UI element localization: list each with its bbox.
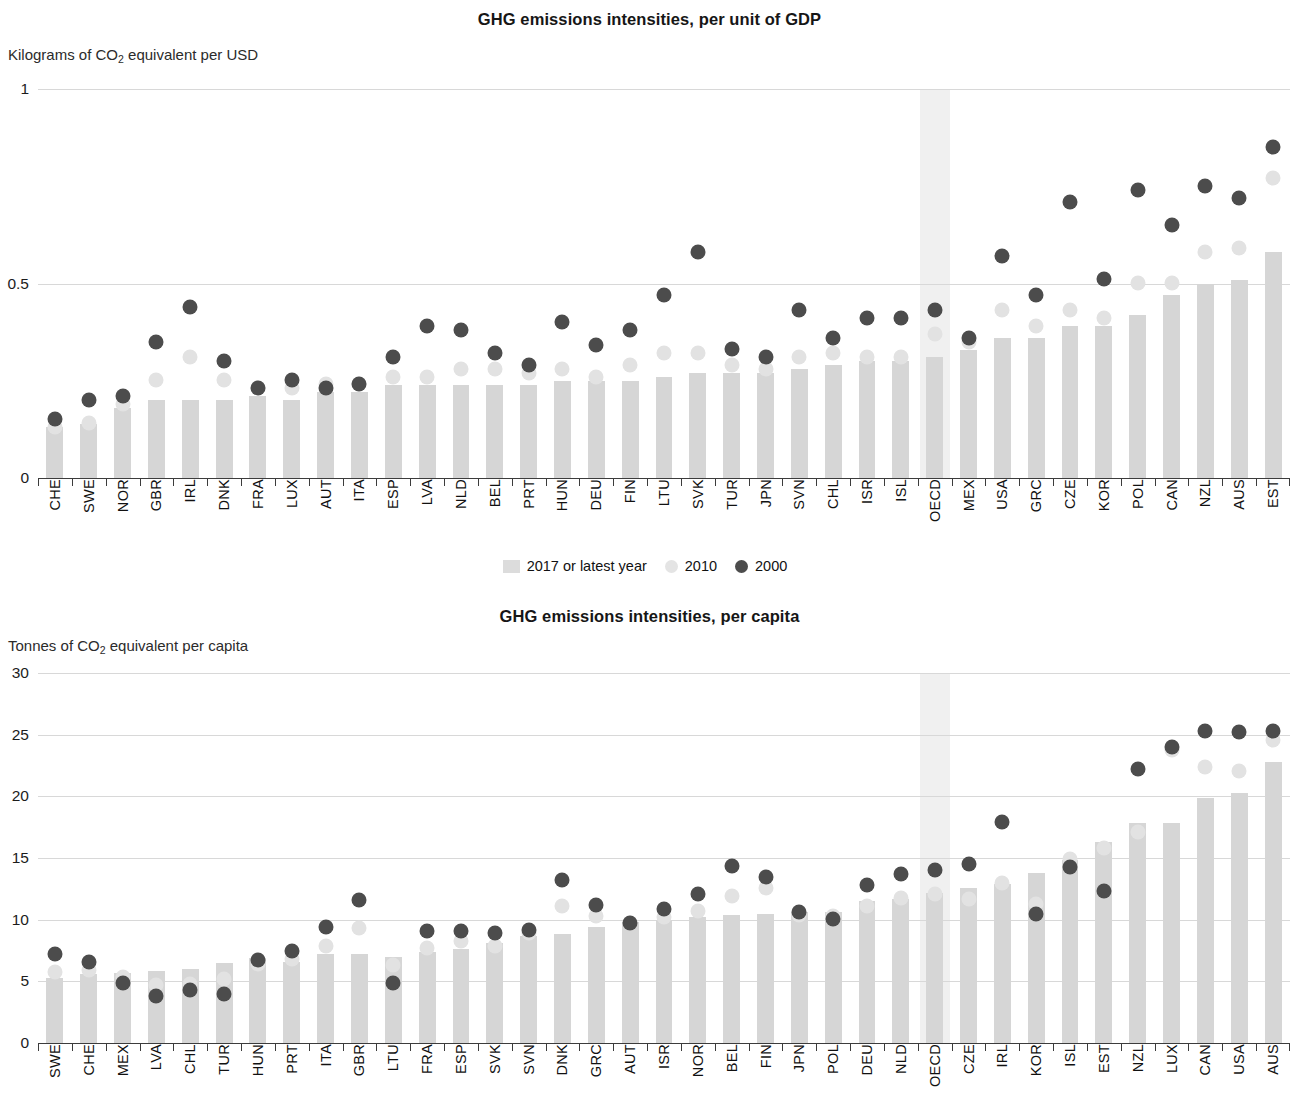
legend-2010-label: 2010 [685, 558, 717, 574]
bar-2017 [689, 917, 706, 1043]
x-axis-label-isr: ISR [859, 479, 875, 504]
dot-2000 [1063, 859, 1078, 874]
x-axis-label-holder: DEU [850, 1044, 884, 1076]
dot-2000 [1232, 190, 1247, 205]
dot-2010 [487, 361, 502, 376]
dot-2000 [589, 897, 604, 912]
dot-2000 [1096, 884, 1111, 899]
x-axis-label-lux: LUX [1164, 1044, 1180, 1073]
x-axis-label-holder: GRC [1019, 479, 1053, 512]
y-axis-unit-capita-sub: 2 [100, 644, 106, 656]
x-axis-label-deu: DEU [588, 479, 604, 511]
x-axis-label-holder: AUS [1256, 1044, 1290, 1075]
x-axis-label-holder: DNK [207, 479, 241, 511]
x-axis-label-holder: CAN [1188, 1044, 1222, 1076]
x-axis-label-holder: JPN [749, 479, 783, 507]
bar-2017 [1062, 326, 1079, 478]
bar-2017 [723, 373, 740, 478]
chart-column [72, 673, 106, 1043]
bar-2017 [1163, 295, 1180, 478]
x-axis-gdp: CHESWENORGBRIRLDNKFRALUXAUTITAESPLVANLDB… [38, 478, 1290, 479]
x-axis-label-holder: OECD [918, 1044, 952, 1087]
dot-2000 [1130, 762, 1145, 777]
x-axis-label-holder: NZL [1188, 479, 1222, 507]
dot-2000 [690, 886, 705, 901]
x-axis-label-holder: ISL [1053, 1044, 1087, 1067]
dot-2010 [1130, 276, 1145, 291]
y-axis-tick-label: 0 [20, 469, 29, 487]
dot-2000 [47, 947, 62, 962]
x-axis-label-ltu: LTU [656, 479, 672, 506]
x-axis-label-holder: LUX [275, 479, 309, 508]
chart-column [1155, 673, 1189, 1043]
chart-page: GHG emissions intensities, per unit of G… [0, 0, 1299, 1115]
dot-2010 [81, 416, 96, 431]
dot-2000 [521, 922, 536, 937]
x-axis-label-fin: FIN [622, 479, 638, 503]
chart-column [985, 89, 1019, 478]
dot-2000 [352, 377, 367, 392]
x-axis-label-holder: GRC [579, 1044, 613, 1077]
x-axis-label-holder: GBR [140, 479, 174, 511]
dot-2000 [453, 923, 468, 938]
bar-2017 [689, 373, 706, 478]
dot-2010 [656, 346, 671, 361]
chart-column [410, 673, 444, 1043]
x-axis-label-isl: ISL [893, 479, 909, 502]
dot-2010 [1232, 241, 1247, 256]
dot-2000 [555, 873, 570, 888]
chart-column [952, 89, 986, 478]
x-axis-label-holder: CHE [38, 479, 72, 511]
chart-column [850, 673, 884, 1043]
bar-2017 [926, 893, 943, 1043]
y-axis-tick-label: 0 [20, 1034, 29, 1052]
dot-2000 [961, 857, 976, 872]
dot-2010 [690, 904, 705, 919]
dot-2010 [1232, 763, 1247, 778]
bar-2017 [1163, 823, 1180, 1043]
dot-2000 [1164, 217, 1179, 232]
x-axis-label-holder: SVN [512, 1044, 546, 1075]
bar-2017 [622, 922, 639, 1043]
x-axis-label-holder: AUT [309, 479, 343, 509]
x-axis-label-holder: DEU [579, 479, 613, 511]
x-axis-label-dnk: DNK [554, 1044, 570, 1076]
x-axis-label-holder: FIN [749, 1044, 783, 1068]
x-axis-label-holder: GBR [343, 1044, 377, 1076]
dot-2000 [656, 287, 671, 302]
x-axis-label-holder: SVN [782, 479, 816, 510]
dot-2000 [1164, 740, 1179, 755]
bar-2017 [791, 912, 808, 1043]
dot-2010 [1198, 759, 1213, 774]
bar-2017 [622, 381, 639, 478]
chart-column [579, 89, 613, 478]
chart-column [173, 673, 207, 1043]
x-axis-label-isl: ISL [1062, 1044, 1078, 1067]
bar-2017 [554, 381, 571, 478]
bar-2017 [520, 385, 537, 478]
chart-column [207, 89, 241, 478]
x-axis-label-nld: NLD [453, 479, 469, 509]
x-axis-label-holder: HUN [546, 479, 580, 511]
x-axis-label-holder: MEX [952, 479, 986, 511]
x-axis-label-holder: USA [985, 479, 1019, 510]
x-axis-label-holder: IRL [173, 479, 207, 502]
x-axis-label-tur: TUR [724, 479, 740, 510]
x-axis-label-holder: EST [1087, 1044, 1121, 1073]
chart-title-gdp: GHG emissions intensities, per unit of G… [0, 10, 1299, 29]
chart-column [275, 673, 309, 1043]
x-axis-label-tur: TUR [216, 1044, 232, 1075]
dot-2010 [860, 899, 875, 914]
x-axis-capita: SWECHEMEXLVACHLTURHUNPRTITAGBRLTUFRAESPS… [38, 1043, 1290, 1044]
bar-2017 [1028, 338, 1045, 478]
chart-column [1019, 673, 1053, 1043]
chart-title-capita: GHG emissions intensities, per capita [0, 607, 1299, 626]
chart-column [376, 89, 410, 478]
x-axis-label-esp: ESP [453, 1044, 469, 1074]
x-axis-label-holder: ISR [850, 479, 884, 504]
chart-column [613, 673, 647, 1043]
x-axis-label-est: EST [1096, 1044, 1112, 1073]
x-axis-label-holder: CAN [1155, 479, 1189, 511]
dot-2000 [1198, 178, 1213, 193]
x-axis-label-isr: ISR [656, 1044, 672, 1069]
